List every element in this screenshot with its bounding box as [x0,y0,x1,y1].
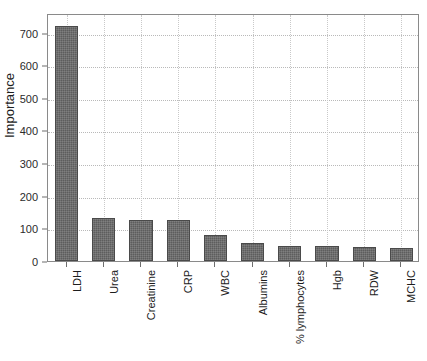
y-axis-tick-label: 700 [0,28,38,40]
y-axis-tick [42,196,47,197]
y-axis-tick-label: 400 [0,125,38,137]
bar [204,235,227,261]
bar [278,246,301,261]
x-axis-tick [66,262,67,267]
figure-bar-chart: Importance 0100200300400500600700LDHUrea… [0,0,427,361]
y-axis-tick [42,262,47,263]
bar [92,218,115,261]
bar [55,26,78,261]
y-axis-tick [42,164,47,165]
bar [129,220,152,261]
y-axis-tick [42,131,47,132]
y-axis-tick-label: 100 [0,223,38,235]
bar [167,220,190,261]
bar [390,248,413,261]
x-axis-tick [214,262,215,267]
y-axis-tick-label: 500 [0,93,38,105]
y-axis-tick-label: 300 [0,158,38,170]
x-axis-tick [103,262,104,267]
plot-area [47,14,419,262]
y-axis-tick [42,66,47,67]
bar [353,247,376,261]
y-axis-tick [42,33,47,34]
x-axis-tick-label: MCHC [405,270,417,303]
y-axis-tick-label: 600 [0,60,38,72]
x-axis-tick [140,262,141,267]
x-axis-tick-label: Hgb [331,270,343,290]
x-axis-tick-label: LDH [71,270,83,292]
x-axis-tick-label: % lymphocytes [294,270,306,344]
x-axis-tick-label: RDW [368,270,380,296]
y-axis-tick-label: 200 [0,191,38,203]
x-axis-tick [289,262,290,267]
y-axis-tick [42,229,47,230]
x-axis-tick [177,262,178,267]
x-axis-tick-label: Albumins [257,270,269,315]
x-axis-tick-label: Creatinine [145,270,157,320]
x-axis-tick-label: WBC [219,270,231,296]
y-axis-tick-label: 0 [0,256,38,268]
x-axis-tick-label: CRP [182,270,194,293]
y-axis-tick [42,98,47,99]
bar [241,243,264,261]
bar [315,246,338,261]
x-axis-tick [400,262,401,267]
x-axis-tick [252,262,253,267]
x-axis-tick-label: Urea [108,270,120,294]
bar-series [48,15,418,261]
x-axis-tick [363,262,364,267]
x-axis-tick [326,262,327,267]
